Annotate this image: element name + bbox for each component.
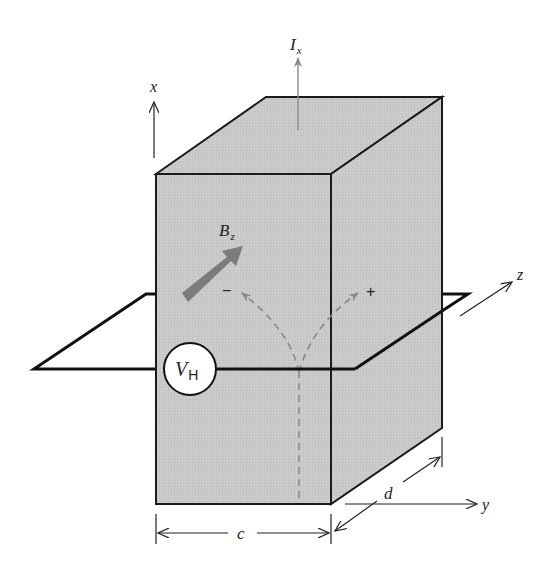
left-lead-wire [34,294,164,369]
minus-sign: − [222,282,231,299]
current-label: Ix [289,35,302,56]
x-axis: x [149,78,157,158]
y-axis: y [345,496,490,514]
z-axis-label: z [516,266,524,283]
plus-sign: + [366,283,375,300]
depth-arrow-lower-icon [335,501,377,531]
z-axis-arrow-icon [460,282,512,316]
z-axis: z [460,266,524,316]
y-axis-label: y [480,496,490,514]
hall-effect-diagram: x Ix Bz − + VH [0,0,550,573]
depth-label: d [384,484,393,503]
depth-arrow-upper-icon [403,457,440,482]
width-dimension: c [156,514,331,544]
hall-voltmeter: VH [164,343,216,395]
width-label: c [237,524,245,543]
x-axis-label: x [149,78,157,95]
semiconductor-block [156,97,442,504]
block-front-face [156,174,331,504]
